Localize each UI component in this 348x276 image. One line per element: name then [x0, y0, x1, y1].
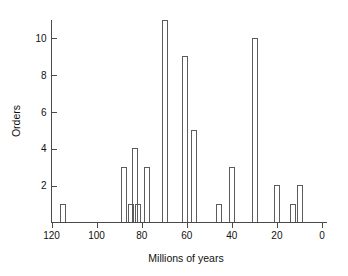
x-tick-label: 60 — [181, 230, 193, 241]
y-axis-title: Orders — [10, 105, 22, 137]
y-tick-label: 6 — [41, 107, 47, 118]
x-tick-label: 40 — [226, 230, 238, 241]
histogram-bar — [183, 57, 188, 223]
histogram-bar — [298, 186, 303, 223]
histogram-bar — [163, 20, 168, 223]
x-tick-label: 0 — [319, 230, 325, 241]
histogram-bar — [192, 131, 197, 223]
y-tick-label: 8 — [41, 70, 47, 81]
y-tick-label: 4 — [41, 143, 47, 154]
histogram-figure: 120100806040200 246810 Millions of years… — [0, 0, 348, 276]
x-tick-label: 20 — [271, 230, 283, 241]
y-axis-ticks: 246810 — [35, 33, 56, 191]
histogram-bar — [217, 204, 222, 222]
x-axis-ticks: 120100806040200 — [43, 223, 325, 241]
y-tick-label: 2 — [41, 180, 47, 191]
histogram-bar — [61, 204, 66, 222]
x-tick-label: 100 — [88, 230, 105, 241]
bars-group — [61, 20, 303, 223]
histogram-bar — [230, 167, 235, 222]
histogram-bar — [275, 186, 280, 223]
histogram-bar — [122, 167, 127, 222]
histogram-bar — [145, 167, 150, 222]
y-tick-label: 10 — [35, 33, 47, 44]
histogram-bar — [253, 38, 258, 222]
x-tick-label: 80 — [136, 230, 148, 241]
plot-canvas: 120100806040200 246810 Millions of years… — [0, 0, 348, 276]
x-tick-label: 120 — [43, 230, 60, 241]
histogram-bar — [291, 204, 296, 222]
axes-group — [52, 20, 328, 223]
x-axis-title: Millions of years — [148, 252, 223, 264]
